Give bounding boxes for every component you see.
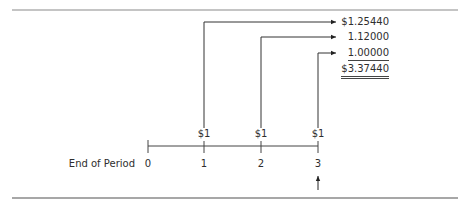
future-value-period-2: 1.12000 — [348, 31, 389, 43]
cash-flow-label-2: $1 — [255, 128, 268, 140]
flow-arrow-period-3 — [318, 53, 336, 128]
flow-arrow-period-1 — [204, 22, 336, 128]
diagram-lines — [0, 0, 459, 200]
future-value-total: $3.37440 — [341, 63, 389, 79]
period-label-3: 3 — [315, 158, 321, 170]
future-value-period-3: 1.00000 — [348, 47, 389, 61]
timeline-label: End of Period — [69, 158, 135, 170]
flow-arrow-period-2 — [261, 37, 336, 128]
cash-flow-label-1: $1 — [198, 128, 211, 140]
cash-flow-label-3: $1 — [312, 128, 325, 140]
period-label-2: 2 — [258, 158, 264, 170]
future-value-period-1: $1.25440 — [341, 16, 389, 28]
annuity-diagram: $1 $1 $1 End of Period 0 1 2 3 $1.25440 … — [0, 0, 459, 200]
period-label-0: 0 — [145, 158, 151, 170]
period-label-1: 1 — [201, 158, 207, 170]
